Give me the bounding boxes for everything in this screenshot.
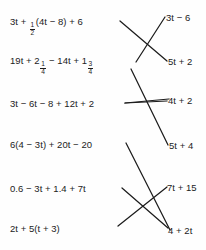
connector-line-3 bbox=[131, 69, 168, 145]
connector-line-8 bbox=[118, 187, 167, 226]
fraction-denominator: 4 bbox=[88, 68, 94, 76]
expression-left-5: 0.6 − 3t + 1.4 + 7t bbox=[10, 184, 86, 194]
expression-right-1: 3t − 6 bbox=[166, 13, 190, 23]
fraction-three-quarters: 34 bbox=[88, 61, 94, 75]
expression-left-1: 3t + 12(4t − 8) + 6 bbox=[10, 17, 83, 37]
connector-line-6 bbox=[126, 143, 170, 230]
connector-line-5 bbox=[125, 99, 169, 103]
connector-line-4 bbox=[125, 101, 167, 103]
connector-line-7 bbox=[122, 188, 168, 228]
expr-left-1-post: (4t − 8) + 6 bbox=[36, 16, 83, 27]
fraction-one-half: 12 bbox=[30, 22, 36, 36]
expression-right-6: 4 + 2t bbox=[168, 226, 192, 236]
expression-right-5: 7t + 15 bbox=[167, 183, 197, 193]
connector-lines-group bbox=[0, 0, 206, 250]
connector-line-2 bbox=[136, 17, 165, 62]
fraction-denominator: 2 bbox=[30, 29, 36, 37]
expression-right-2: 5t + 2 bbox=[168, 57, 192, 67]
expression-right-3: 4t + 2 bbox=[168, 96, 192, 106]
expression-right-4: 5t + 4 bbox=[169, 141, 193, 151]
matching-worksheet: 3t + 12(4t − 8) + 6 19t + 214 − 14t + 13… bbox=[0, 0, 206, 250]
expr-left-1-pre: 3t + bbox=[10, 16, 29, 27]
connector-line-1 bbox=[120, 21, 167, 61]
expression-left-2: 19t + 214 − 14t + 134 bbox=[10, 56, 94, 76]
fraction-denominator: 4 bbox=[40, 68, 46, 76]
expression-left-6: 2t + 5(t + 3) bbox=[10, 224, 60, 234]
expression-left-4: 6(4 − 3t) + 20t − 20 bbox=[10, 140, 92, 150]
fraction-numerator: 1 bbox=[30, 22, 36, 29]
expression-left-3: 3t − 6t − 8 + 12t + 2 bbox=[10, 99, 94, 109]
expr-left-2-pre: 19t + 2 bbox=[10, 55, 40, 66]
fraction-numerator: 3 bbox=[88, 61, 94, 68]
expr-left-2-mid: − 14t + 1 bbox=[46, 55, 87, 66]
